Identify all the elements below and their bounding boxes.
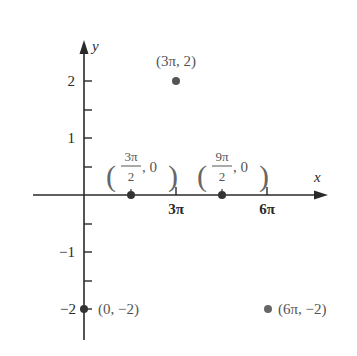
- fraction-denominator: 2: [128, 169, 135, 184]
- open-paren: (: [197, 159, 207, 193]
- point-marker: [80, 305, 88, 313]
- point-label-rest: , 0: [233, 159, 248, 175]
- close-paren: ): [259, 159, 269, 193]
- point-6pi-neg2: (6π, −2): [264, 301, 327, 318]
- fraction-numerator: 9π: [215, 149, 229, 164]
- close-paren: ): [168, 159, 178, 193]
- x-axis-arrow-icon: [314, 191, 328, 200]
- diagram-canvas: y 2 1 −1 −2 x 3π 6π (3π, 2) ( 3π 2 , 0 )…: [0, 0, 357, 356]
- point-marker: [172, 77, 180, 85]
- point-9pi-over-2-0: ( 9π 2 , 0 ): [197, 149, 269, 199]
- point-label: (0, −2): [98, 301, 139, 318]
- y-axis-label: y: [90, 38, 99, 54]
- fraction-numerator: 3π: [124, 149, 138, 164]
- point-label: (3π, 2): [156, 53, 196, 70]
- y-tick-label-neg2: −2: [60, 301, 76, 317]
- x-axis-label: x: [313, 169, 321, 185]
- x-axis: [33, 187, 328, 200]
- x-tick-label-3pi: 3π: [168, 201, 185, 217]
- y-tick-label-neg1: −1: [59, 244, 75, 260]
- point-3pi-2: (3π, 2): [156, 53, 196, 85]
- open-paren: (: [106, 159, 116, 193]
- point-label-rest: , 0: [142, 159, 157, 175]
- y-axis-arrow-icon: [80, 40, 89, 54]
- x-tick-label-6pi: 6π: [259, 201, 276, 217]
- y-tick-label-1: 1: [68, 130, 76, 146]
- point-label: (6π, −2): [278, 301, 327, 318]
- point-marker: [264, 305, 272, 313]
- y-tick-label-2: 2: [68, 73, 76, 89]
- fraction-denominator: 2: [219, 169, 226, 184]
- y-axis: [80, 40, 93, 340]
- point-3pi-over-2-0: ( 3π 2 , 0 ): [106, 149, 178, 199]
